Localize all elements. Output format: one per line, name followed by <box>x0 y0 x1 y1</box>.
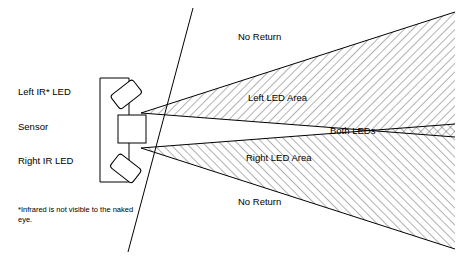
label-no-return-top-text: No Return <box>238 31 281 42</box>
label-both-leds-text: Both LEDs <box>330 125 375 136</box>
footnote: *Infrared is not visible to the naked ey… <box>18 205 138 225</box>
label-no-return-bottom: No Return <box>238 196 281 207</box>
label-left-ir-led-text: Left IR* LED <box>18 86 71 97</box>
label-no-return-top: No Return <box>238 31 281 42</box>
label-right-led-area-text: Right LED Area <box>246 152 311 163</box>
right-led-shape <box>109 153 142 184</box>
label-right-ir-led: Right IR LED <box>18 155 73 166</box>
label-no-return-bottom-text: No Return <box>238 196 281 207</box>
label-both-leds: Both LEDs <box>330 125 375 136</box>
label-right-ir-led-text: Right IR LED <box>18 155 73 166</box>
label-left-led-area: Left LED Area <box>248 92 307 103</box>
diagram-page: Left IR* LED Sensor Right IR LED No Retu… <box>0 0 460 260</box>
footnote-text: *Infrared is not visible to the naked ey… <box>18 205 133 224</box>
label-sensor-text: Sensor <box>18 121 48 132</box>
label-sensor: Sensor <box>18 121 48 132</box>
left-led-shape <box>110 79 143 110</box>
label-right-led-area: Right LED Area <box>246 152 311 163</box>
left-led-beam-hatch <box>141 12 455 137</box>
sensor-box <box>118 115 146 143</box>
right-led-beam-hatch <box>141 124 455 249</box>
label-left-ir-led: Left IR* LED <box>18 86 71 97</box>
label-left-led-area-text: Left LED Area <box>248 92 307 103</box>
